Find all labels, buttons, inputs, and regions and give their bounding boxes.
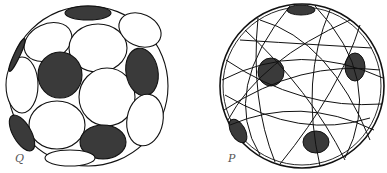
sphere-q xyxy=(4,6,168,166)
figure-canvas xyxy=(0,0,387,173)
sphere-p xyxy=(220,4,384,168)
label-p: P xyxy=(228,152,235,165)
label-q: Q xyxy=(15,152,24,165)
